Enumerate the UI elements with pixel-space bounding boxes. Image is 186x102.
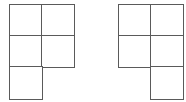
grid-cell [9, 35, 43, 68]
grid-cell [9, 4, 43, 37]
grid-cell [150, 4, 184, 37]
grid-cell [9, 66, 43, 100]
grid-cell [41, 35, 75, 68]
right-shape [118, 4, 184, 101]
grid-cell [41, 4, 75, 37]
grid-cell [118, 35, 152, 68]
grid-cell [150, 35, 184, 68]
grid-cell [118, 4, 152, 37]
grid-cell [150, 66, 184, 100]
left-shape [9, 4, 75, 101]
